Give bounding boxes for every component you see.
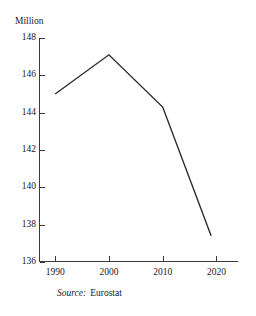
y-tick-label: 136 bbox=[22, 257, 36, 267]
source-value: Eurostat bbox=[90, 288, 122, 298]
y-axis-unit-label: Million bbox=[15, 16, 44, 27]
y-tick-mark bbox=[40, 262, 45, 263]
y-tick-label: 138 bbox=[22, 220, 36, 230]
x-tick-label: 1990 bbox=[46, 267, 65, 278]
series-line-population bbox=[39, 38, 238, 262]
y-tick-label: 146 bbox=[22, 71, 36, 81]
source-label: Source: bbox=[57, 288, 86, 298]
source-note: Source:Eurostat bbox=[57, 288, 122, 299]
plot-area: 148146144142140138136 1990200020102020 bbox=[39, 38, 238, 262]
y-tick-label: 144 bbox=[22, 108, 36, 118]
y-tick-label: 142 bbox=[22, 145, 36, 155]
y-tick-label: 148 bbox=[22, 33, 36, 43]
x-tick-label: 2010 bbox=[153, 267, 172, 278]
y-tick-label: 140 bbox=[22, 183, 36, 193]
chart-figure: Million 148146144142140138136 1990200020… bbox=[0, 0, 256, 316]
x-tick-label: 2000 bbox=[99, 267, 118, 278]
x-tick-label: 2020 bbox=[207, 267, 226, 278]
